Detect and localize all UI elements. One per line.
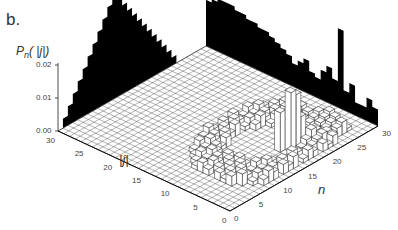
n-tick-label: 10	[283, 186, 292, 195]
n-tick-label: 25	[357, 143, 366, 152]
z-tick-label: 0.01	[36, 93, 52, 102]
j-tick-label: 25	[75, 149, 84, 158]
j-tick-label: 15	[132, 176, 141, 185]
j-tick-label: 0	[222, 216, 226, 225]
j-tick-label: 5	[193, 203, 197, 212]
n-tick-label: 15	[308, 172, 317, 181]
j-tick-label: 10	[161, 189, 170, 198]
j-tick-label: 20	[103, 163, 112, 172]
panel-label: b.	[6, 10, 20, 30]
n-tick-label: 0	[234, 214, 238, 223]
j-axis-label: |j|	[119, 152, 129, 167]
z-tick-label: 0.02	[36, 60, 52, 69]
j-tick-label: 30	[46, 136, 55, 145]
n-tick-label: 20	[333, 157, 342, 166]
3d-bar-chart	[0, 0, 398, 230]
z-axis-label: Pn( |j|)	[16, 44, 49, 60]
z-tick-label: 0.00	[36, 126, 52, 135]
n-axis-label: n	[318, 182, 325, 197]
n-tick-label: 5	[259, 200, 263, 209]
n-tick-label: 30	[382, 129, 391, 138]
